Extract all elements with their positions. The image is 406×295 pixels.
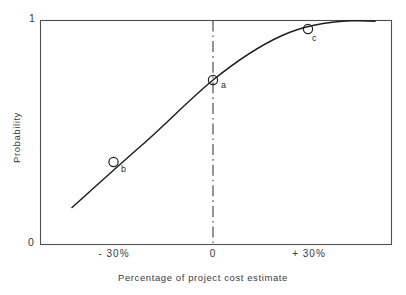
probability-curve-figure: 1 0 Probability - 30% 0 + 30% Percentage… [0, 0, 406, 295]
data-point-a-label: a [221, 80, 226, 90]
data-point-a-marker [208, 75, 217, 84]
data-point-b-marker [109, 157, 118, 166]
y-axis-min-label: 0 [28, 236, 34, 248]
y-axis-title: Probability [11, 92, 22, 184]
plot-frame [41, 21, 392, 245]
x-axis-title: Percentage of project cost estimate [0, 272, 406, 283]
data-point-c-label: c [312, 33, 317, 43]
y-axis-max-label: 1 [29, 12, 35, 24]
x-tick-label-minus-30: - 30% [83, 248, 145, 259]
probability-curve [72, 21, 375, 208]
x-tick-label-plus-30: + 30% [278, 248, 340, 259]
x-tick-label-zero: 0 [188, 248, 238, 259]
data-point-b-label: b [121, 164, 126, 174]
